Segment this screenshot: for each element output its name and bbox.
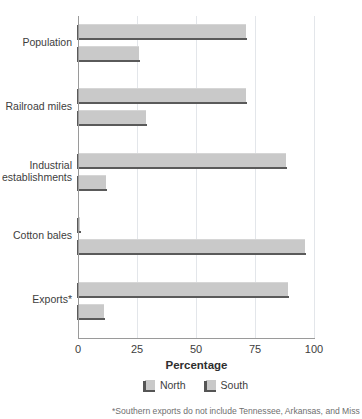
bar-group-industrial-establishments (78, 145, 314, 209)
bar-population-south (78, 46, 139, 60)
legend-swatch-icon (206, 380, 216, 390)
category-label-line2: establishments (0, 171, 72, 183)
y-axis-line (78, 16, 79, 338)
plot-area (78, 16, 314, 338)
bar-group-exports (78, 274, 314, 338)
category-label-exports: Exports* (0, 293, 72, 305)
category-label-population: Population (0, 36, 72, 48)
gridline-100 (314, 16, 315, 338)
bar-railroad-miles-north (78, 88, 246, 102)
chart-legend: North South (78, 379, 315, 391)
legend-swatch-icon (145, 380, 155, 390)
bar-group-cotton-bales (78, 209, 314, 273)
legend-item-north: North (145, 379, 186, 391)
category-label-industrial-establishments: Industrial establishments (0, 159, 72, 183)
category-label-line1: Cotton bales (0, 229, 72, 241)
bar-industrial-establishments-north (78, 153, 286, 167)
x-axis-line (78, 338, 315, 339)
category-label-line1: Population (0, 36, 72, 48)
x-tick-label-50: 50 (190, 343, 202, 355)
category-label-line1: Exports* (0, 293, 72, 305)
bar-cotton-bales-south (78, 239, 305, 253)
bar-exports-north (78, 282, 288, 296)
category-label-cotton-bales: Cotton bales (0, 229, 72, 241)
bar-exports-south (78, 304, 104, 318)
chart-footnote: *Southern exports do not include Tenness… (112, 406, 362, 417)
x-tick-label-75: 75 (249, 343, 261, 355)
bar-group-railroad-miles (78, 80, 314, 144)
bar-railroad-miles-south (78, 110, 146, 124)
bar-group-population (78, 16, 314, 80)
x-tick-label-100: 100 (305, 343, 323, 355)
category-label-railroad-miles: Railroad miles (0, 100, 72, 112)
bar-population-north (78, 24, 246, 38)
legend-label-south: South (221, 379, 248, 391)
legend-label-north: North (160, 379, 186, 391)
category-label-line1: Industrial (0, 159, 72, 171)
legend-item-south: South (206, 379, 248, 391)
x-tick-label-0: 0 (75, 343, 81, 355)
x-axis-title: Percentage (78, 359, 315, 371)
bar-industrial-establishments-south (78, 175, 106, 189)
x-tick-label-25: 25 (131, 343, 143, 355)
category-label-line1: Railroad miles (0, 100, 72, 112)
